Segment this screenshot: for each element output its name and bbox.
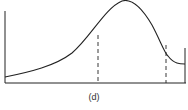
figure-caption: (d) <box>0 92 188 102</box>
distribution-curve <box>5 0 185 77</box>
